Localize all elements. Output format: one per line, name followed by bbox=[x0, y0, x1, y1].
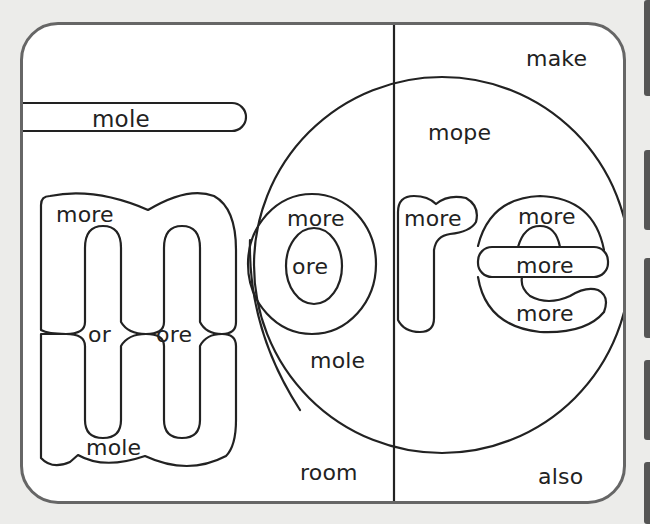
word-circle-mole: mole bbox=[310, 350, 365, 372]
word-m-middle-right: ore bbox=[156, 324, 192, 346]
word-top-bar: mole bbox=[92, 108, 150, 131]
word-m-middle-left: or bbox=[88, 324, 111, 346]
word-e-bar: more bbox=[516, 255, 574, 277]
word-r-top: more bbox=[404, 208, 462, 230]
word-m-bottom: mole bbox=[86, 437, 141, 459]
word-circle-mope: mope bbox=[428, 122, 491, 144]
word-e-bottom: more bbox=[516, 303, 574, 325]
word-corner-top-right: make bbox=[526, 48, 587, 70]
word-o-inner: ore bbox=[292, 256, 328, 278]
word-bottom-left-column: room bbox=[300, 462, 358, 484]
word-bottom-right: also bbox=[538, 466, 583, 488]
word-e-top: more bbox=[518, 206, 576, 228]
letter-e-inner-arc bbox=[518, 226, 560, 247]
word-m-top-left: more bbox=[56, 204, 114, 226]
word-o-outer: more bbox=[287, 208, 345, 230]
